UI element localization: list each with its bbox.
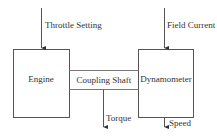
field-current-label: Field Current (167, 20, 216, 30)
torque-label: Torque (106, 113, 131, 123)
speed-label: Speed (169, 118, 191, 128)
block-diagram: Engine Dynamometer Coupling Shaft Thrott… (0, 0, 217, 138)
dynamometer-label: Dynamometer (140, 74, 191, 84)
coupling-shaft-label: Coupling Shaft (77, 75, 132, 85)
engine-label: Engine (28, 74, 54, 84)
throttle-setting-label: Throttle Setting (45, 20, 102, 30)
